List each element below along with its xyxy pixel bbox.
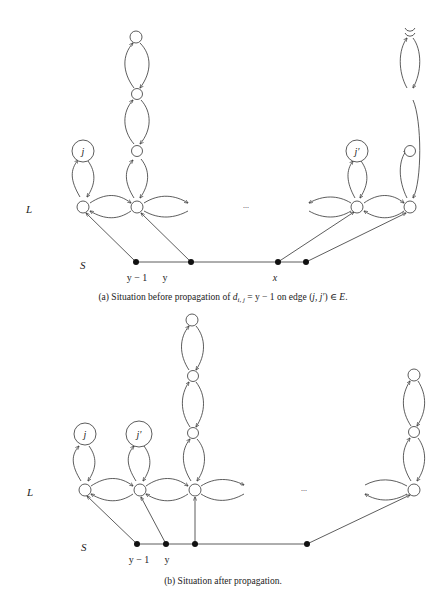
chain-node — [188, 371, 199, 382]
s-node — [134, 541, 140, 547]
chain-node — [186, 314, 198, 326]
chain-node-partial — [405, 28, 415, 31]
propagation-diagram: L S j j′ y − 1 y x ... (a) Situation bef… — [0, 0, 447, 598]
s-node — [133, 259, 139, 265]
s-node — [304, 541, 310, 547]
s-node — [303, 259, 309, 265]
row-label-S: S — [81, 541, 87, 553]
label-j-prime: j′ — [353, 146, 361, 157]
l-node — [408, 484, 420, 496]
caption-a: (a) Situation before propagation of di, … — [98, 292, 347, 304]
row-label-L: L — [25, 203, 32, 215]
l-node — [404, 201, 416, 213]
chain-node — [405, 146, 416, 157]
s-node — [188, 259, 194, 265]
panel-a: L S j j′ y − 1 y x ... (a) Situation bef… — [25, 28, 420, 304]
l-node — [351, 201, 363, 213]
l-node — [77, 201, 89, 213]
l-node — [131, 201, 143, 213]
label-j-prime: j′ — [135, 429, 143, 440]
panel-b: L S j j′ y − 1 y ... (b) Situation after… — [26, 314, 425, 587]
chain-node — [188, 428, 199, 439]
chain-node — [132, 89, 143, 100]
s-label-y-minus-1: y − 1 — [129, 554, 150, 565]
chain-node — [409, 427, 420, 438]
ellipsis: ... — [243, 201, 249, 210]
chain-node — [132, 146, 143, 157]
l-node — [134, 484, 146, 496]
s-node — [192, 541, 198, 547]
l-node — [189, 484, 201, 496]
l-node — [79, 484, 91, 496]
caption-b: (b) Situation after propagation. — [164, 576, 282, 587]
ellipsis: ... — [301, 484, 307, 493]
row-label-L: L — [26, 486, 33, 498]
s-label-x: x — [272, 272, 278, 283]
s-label-y: y — [165, 554, 170, 565]
s-node — [163, 541, 169, 547]
s-node — [275, 259, 281, 265]
chain-node — [408, 369, 420, 381]
s-label-y: y — [163, 272, 168, 283]
s-label-y-minus-1: y − 1 — [127, 272, 148, 283]
chain-node — [130, 31, 142, 43]
row-label-S: S — [80, 259, 86, 271]
